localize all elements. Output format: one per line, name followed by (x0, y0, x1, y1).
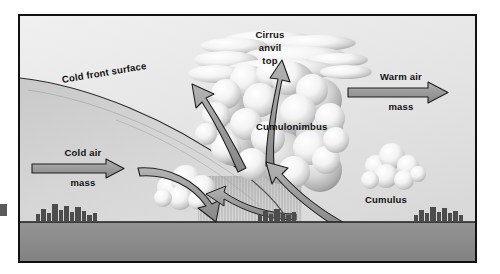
label-cumulonimbus: Cumulonimbus (256, 121, 328, 132)
label-cold-air-mass-line2: mass (42, 177, 124, 188)
ground-surface (20, 222, 475, 261)
label-warm-air-mass-line2: mass (358, 101, 444, 112)
label-cold-air-mass-line1: Cold air (42, 147, 124, 158)
label-cirrus-anvil-line2: anvil (242, 42, 298, 53)
diagram-canvas: Cold front surface Cirrus anvil top Cumu… (0, 0, 500, 274)
label-warm-air-mass-line1: Warm air (358, 71, 444, 82)
label-cirrus-anvil-line1: Cirrus (242, 29, 298, 40)
label-cumulus: Cumulus (365, 194, 407, 205)
diagram-frame: Cold front surface Cirrus anvil top Cumu… (18, 14, 477, 263)
label-cirrus-anvil-line3: top (242, 55, 298, 66)
left-edge-marker (0, 204, 7, 216)
